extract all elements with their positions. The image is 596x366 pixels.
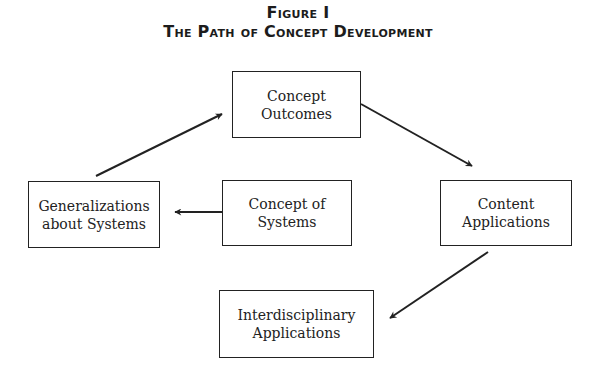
arrow-content-applications-to-interdisciplinary — [390, 252, 488, 318]
node-text: Generalizations — [38, 197, 149, 215]
node-text: Interdisciplinary — [238, 306, 356, 324]
node-interdisciplinary-applications: Interdisciplinary Applications — [219, 290, 374, 358]
node-generalizations: Generalizations about Systems — [28, 181, 160, 248]
node-content-applications: Content Applications — [440, 180, 572, 246]
node-text: Concept — [261, 87, 332, 105]
node-text: Content — [462, 195, 550, 213]
node-text: Systems — [249, 213, 326, 231]
node-text: Applications — [238, 324, 356, 342]
node-text: Concept of — [249, 195, 326, 213]
arrow-generalizations-to-concept-outcomes — [96, 114, 222, 176]
node-text: Applications — [462, 213, 550, 231]
node-concept-of-systems: Concept of Systems — [222, 180, 352, 246]
arrow-concept-outcomes-to-content-applications — [361, 104, 472, 166]
node-concept-outcomes: Concept Outcomes — [232, 71, 361, 138]
node-text: Outcomes — [261, 105, 332, 123]
node-text: about Systems — [38, 215, 149, 233]
